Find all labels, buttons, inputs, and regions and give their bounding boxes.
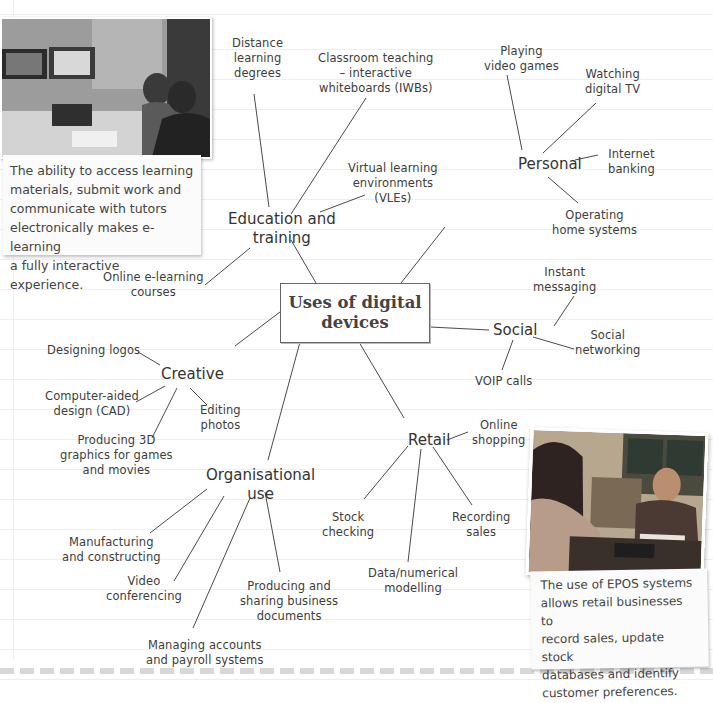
label-line: Instant xyxy=(533,265,596,280)
item-accounts-payroll: Managing accountsand payroll systems xyxy=(146,638,263,668)
note-line: record sales, update stock xyxy=(541,628,699,667)
label-line: VOIP calls xyxy=(475,374,532,389)
label-line: photos xyxy=(200,418,241,433)
label-line: messaging xyxy=(533,280,596,295)
label-line: Classroom teaching xyxy=(318,51,434,66)
category-social: Social xyxy=(493,321,537,340)
label-line: Social xyxy=(493,321,537,340)
center-title-line1: Uses of digital xyxy=(288,293,421,312)
label-line: checking xyxy=(322,525,374,540)
label-line: graphics for games xyxy=(60,448,173,463)
label-line: Organisational xyxy=(206,466,315,485)
epos-note: The use of EPOS systems allows retail bu… xyxy=(530,568,709,669)
label-line: conferencing xyxy=(106,589,182,604)
item-stock-checking: Stockchecking xyxy=(322,510,374,540)
label-line: – interactive xyxy=(318,66,434,81)
label-line: home systems xyxy=(552,223,637,238)
label-line: Playing xyxy=(484,44,559,59)
label-line: networking xyxy=(575,343,641,358)
label-line: Online xyxy=(472,418,526,433)
category-retail: Retail xyxy=(408,431,450,450)
label-line: digital TV xyxy=(585,82,640,97)
note-line: communicate with tutors xyxy=(10,199,194,218)
label-line: Managing accounts xyxy=(146,638,263,653)
category-label-line: training xyxy=(228,229,336,248)
label-line: Manufacturing xyxy=(62,535,161,550)
item-designing-logos: Designing logos xyxy=(47,343,140,358)
note-line: materials, submit work and xyxy=(10,180,194,199)
item-recording-sales: Recordingsales xyxy=(452,510,510,540)
item-3d-graphics: Producing 3Dgraphics for gamesand movies xyxy=(60,433,173,478)
note-line: allows retail businesses to xyxy=(541,592,699,631)
label-line: Social xyxy=(575,328,641,343)
elearning-note: The ability to access learning materials… xyxy=(3,155,201,255)
label-line: Creative xyxy=(161,365,224,384)
label-line: Data/numerical xyxy=(368,566,458,581)
item-cad: Computer-aideddesign (CAD) xyxy=(45,389,139,419)
item-editing-photos: Editingphotos xyxy=(200,403,241,433)
item-business-documents: Producing andsharing businessdocuments xyxy=(240,579,338,624)
label-line: Computer-aided xyxy=(45,389,139,404)
item-voip-calls: VOIP calls xyxy=(475,374,532,389)
label-line: Retail xyxy=(408,431,450,450)
label-line: documents xyxy=(240,609,338,624)
category-label-line: Education and xyxy=(228,210,336,229)
item-vles: Virtual learningenvironments(VLEs) xyxy=(348,161,438,206)
label-line: use xyxy=(206,485,315,504)
label-line: modelling xyxy=(368,581,458,596)
item-online-shopping: Onlineshopping xyxy=(472,418,526,448)
label-line: banking xyxy=(608,162,655,177)
central-topic-box: Uses of digitaldevices xyxy=(280,283,430,343)
item-video-conferencing: Videoconferencing xyxy=(106,574,182,604)
item-internet-banking: Internetbanking xyxy=(608,147,655,177)
label-line: whiteboards (IWBs) xyxy=(318,81,434,96)
item-instant-messaging: Instantmessaging xyxy=(533,265,596,295)
label-line: and movies xyxy=(60,463,173,478)
label-line: Producing and xyxy=(240,579,338,594)
label-line: Internet xyxy=(608,147,655,162)
label-line: Operating xyxy=(552,208,637,223)
label-line: Virtual learning xyxy=(348,161,438,176)
item-operating-home-systems: Operatinghome systems xyxy=(552,208,637,238)
category-personal: Personal xyxy=(518,155,582,174)
label-line: Distance xyxy=(232,36,283,51)
note-line: customer preferences. xyxy=(542,682,699,703)
category-education-training: Education and training xyxy=(228,210,336,248)
label-line: sharing business xyxy=(240,594,338,609)
item-distance-learning: Distancelearningdegrees xyxy=(232,36,283,81)
label-line: Producing 3D xyxy=(60,433,173,448)
category-organisational-use: Organisationaluse xyxy=(206,466,315,504)
label-line: (VLEs) xyxy=(348,191,438,206)
label-line: and payroll systems xyxy=(146,653,263,668)
category-creative: Creative xyxy=(161,365,224,384)
label-line: learning xyxy=(232,51,283,66)
item-watching-digital-tv: Watchingdigital TV xyxy=(585,67,640,97)
label-line: degrees xyxy=(232,66,283,81)
label-line: Recording xyxy=(452,510,510,525)
item-data-numerical-modelling: Data/numericalmodelling xyxy=(368,566,458,596)
label-line: sales xyxy=(452,525,510,540)
label-line: Designing logos xyxy=(47,343,140,358)
label-line: design (CAD) xyxy=(45,404,139,419)
item-manufacturing: Manufacturingand constructing xyxy=(62,535,161,565)
label-line: Video xyxy=(106,574,182,589)
note-line: electronically makes e-learning xyxy=(10,218,194,256)
label-line: Stock xyxy=(322,510,374,525)
classroom-scene-icon xyxy=(2,19,210,157)
item-social-networking: Socialnetworking xyxy=(575,328,641,358)
note-line: The ability to access learning xyxy=(10,161,194,180)
label-line: video games xyxy=(484,59,559,74)
item-classroom-iwbs: Classroom teaching– interactivewhiteboar… xyxy=(318,51,434,96)
label-line: shopping xyxy=(472,433,526,448)
item-online-elearning: Online e-learningcourses xyxy=(103,270,204,300)
label-line: environments xyxy=(348,176,438,191)
label-line: Editing xyxy=(200,403,241,418)
label-line: Online e-learning xyxy=(103,270,204,285)
center-title-line2: devices xyxy=(321,313,389,332)
epos-shop-photo xyxy=(525,427,708,581)
label-line: courses xyxy=(103,285,204,300)
label-line: and constructing xyxy=(62,550,161,565)
elearning-classroom-photo xyxy=(0,17,212,159)
shop-counter-scene-icon xyxy=(529,430,706,578)
label-line: Personal xyxy=(518,155,582,174)
